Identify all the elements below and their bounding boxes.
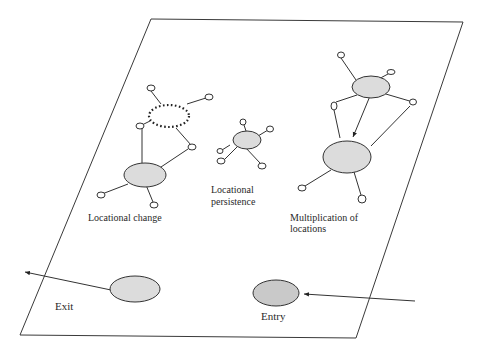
label-locational-persistence: Locational persistence <box>211 184 256 207</box>
exit-location-node <box>110 276 160 302</box>
label-multiplication-of-locations: Multiplication of locations <box>290 212 361 234</box>
diagram-canvas: Locational change Locational persistence <box>0 0 478 354</box>
exit-group <box>25 272 160 302</box>
entry-group <box>253 280 415 306</box>
plane-parallelogram <box>20 19 463 338</box>
group-multiplication-of-locations <box>298 52 417 203</box>
label-locational-change: Locational change <box>88 212 162 223</box>
exit-label: Exit <box>55 300 73 312</box>
location-node-previous-dotted <box>149 105 189 127</box>
entry-label: Entry <box>261 310 286 322</box>
group-locational-persistence <box>217 119 274 169</box>
location-node <box>233 131 261 149</box>
location-node-new <box>323 141 371 173</box>
entry-location-node <box>253 280 299 306</box>
group-locational-change <box>97 85 213 208</box>
location-node-current <box>124 163 166 187</box>
location-node-origin <box>352 76 390 98</box>
